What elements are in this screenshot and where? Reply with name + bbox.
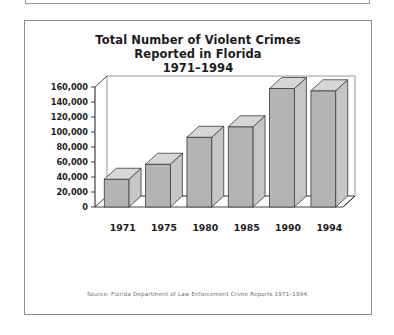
x-tick-label-1971: 1971 — [110, 222, 136, 233]
y-tick-label-20000: 20,000 — [56, 187, 88, 197]
x-tick-label-1975: 1975 — [151, 222, 177, 233]
bar-1990 — [270, 78, 307, 208]
y-tick-label-80000: 80,000 — [56, 142, 88, 152]
bar-1975 — [146, 153, 183, 207]
y-axis-depth-edge — [95, 76, 107, 87]
y-tick-label-160000: 160,000 — [51, 82, 89, 92]
y-tick-label-120000: 120,000 — [51, 112, 89, 122]
y-tick-label-100000: 100,000 — [51, 127, 89, 137]
bar-1980 — [187, 126, 224, 207]
y-tick-label-140000: 140,000 — [51, 97, 89, 107]
partial-box-above — [25, 0, 370, 4]
x-tick-label-1985: 1985 — [234, 222, 260, 233]
bar-1971 — [104, 168, 141, 207]
x-tick-label-1994: 1994 — [316, 222, 342, 233]
bar-chart-plot: 020,00040,00060,00080,000100,000120,0001… — [25, 21, 373, 316]
bar-1985 — [228, 116, 265, 207]
source-note: Source: Florida Department of Law Enforc… — [25, 291, 371, 297]
chart-svg: 020,00040,00060,00080,000100,000120,0001… — [25, 21, 373, 316]
chart-figure-frame: Total Number of Violent Crimes Reported … — [24, 20, 372, 315]
y-tick-label-0: 0 — [82, 202, 88, 212]
y-tick-label-60000: 60,000 — [56, 157, 88, 167]
y-tick-label-40000: 40,000 — [56, 172, 88, 182]
bar-1994 — [311, 80, 348, 207]
x-tick-label-1980: 1980 — [192, 222, 218, 233]
x-tick-label-1990: 1990 — [275, 222, 301, 233]
